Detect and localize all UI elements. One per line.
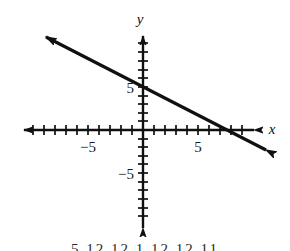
y-axis-title: y — [135, 11, 144, 27]
coordinate-plane-figure: −5 5 x — [0, 0, 290, 251]
y-tick-label-neg-five: −5 — [118, 166, 134, 182]
x-tick-label-pos-five: 5 — [194, 139, 202, 155]
x-axis: −5 5 x — [24, 121, 276, 155]
linear-function-line — [46, 37, 266, 150]
x-axis-title: x — [268, 121, 276, 137]
x-tick-label-neg-five: −5 — [80, 139, 96, 155]
y-axis: 5 −5 y — [118, 11, 148, 228]
figure-caption: 5 12 12 1 12 12 11 — [0, 242, 290, 251]
graph-canvas: −5 5 x — [0, 0, 290, 251]
data-line-series — [46, 37, 266, 150]
